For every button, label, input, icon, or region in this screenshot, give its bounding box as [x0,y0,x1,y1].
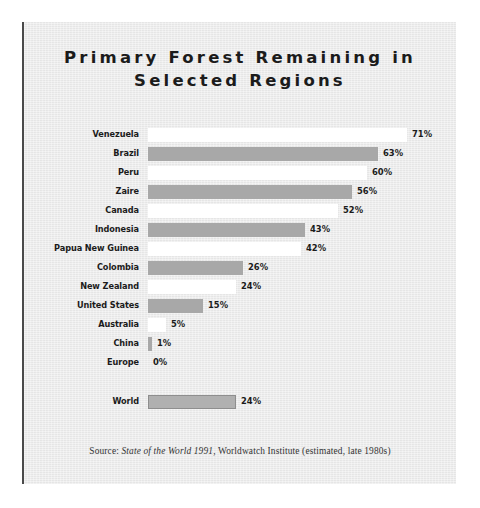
bar-value-label: 24% [241,280,261,291]
bar-value-label: 60% [372,166,392,177]
source-rest: , Worldwatch Institute (estimated, late … [213,446,391,456]
bar-category-label: New Zealand [38,280,139,291]
bar-row: Indonesia43% [24,222,458,241]
bar-category-label: Canada [38,204,139,215]
bar-chart-plot-area: Venezuela71%Brazil63%Peru60%Zaire56%Cana… [24,127,458,413]
bar [148,185,352,199]
bar [148,147,378,161]
bar-row: Colombia26% [24,260,458,279]
bar-category-label: Indonesia [38,223,139,234]
source-note: Source: State of the World 1991, Worldwa… [24,446,456,456]
bar-value-label: 26% [248,261,268,272]
chart-figure: Primary Forest Remaining in Selected Reg… [22,22,456,484]
bar-row: Europe0% [24,355,458,374]
bar [148,223,305,237]
source-book-title: State of the World 1991 [121,446,213,456]
bar-row: Peru60% [24,165,458,184]
bar [148,128,407,142]
bar-value-label: 15% [208,299,228,310]
bar-category-label: Peru [38,166,139,177]
bar-row: New Zealand24% [24,279,458,298]
bar-row: Venezuela71% [24,127,458,146]
bar-row: United States15% [24,298,458,317]
bar-value-label: 63% [383,147,403,158]
bar-row: Canada52% [24,203,458,222]
bar-category-label: United States [38,299,139,310]
bar-row: Australia5% [24,317,458,336]
bar-row: China1% [24,336,458,355]
bar-category-label: Papua New Guinea [38,242,139,253]
bar [148,337,152,351]
bar-category-label: Venezuela [38,128,139,139]
bar-value-label: 24% [241,395,261,406]
bar-row: World24% [24,394,458,413]
bar [148,299,203,313]
bar-category-label: Brazil [38,147,139,158]
bar-row: Papua New Guinea42% [24,241,458,260]
bar [148,395,236,409]
bar-value-label: 0% [153,356,167,367]
bar-value-label: 43% [310,223,330,234]
bar-category-label: World [38,395,139,406]
bar-value-label: 56% [357,185,377,196]
bar [148,280,236,294]
source-prefix: Source: [89,446,121,456]
bar [148,261,243,275]
bar-value-label: 42% [306,242,326,253]
bar [148,204,338,218]
bar-category-label: Europe [38,356,139,367]
bar-category-label: China [38,337,139,348]
bar [148,318,166,332]
bar [148,166,367,180]
bar-value-label: 5% [171,318,185,329]
bar [148,242,301,256]
row-spacer [24,374,458,394]
bar-category-label: Colombia [38,261,139,272]
bar-value-label: 1% [157,337,171,348]
bar-value-label: 71% [412,128,432,139]
bar-row: Brazil63% [24,146,458,165]
chart-title: Primary Forest Remaining in Selected Reg… [24,46,456,92]
bar-category-label: Australia [38,318,139,329]
bar-row: Zaire56% [24,184,458,203]
bar-value-label: 52% [343,204,363,215]
bar-category-label: Zaire [38,185,139,196]
